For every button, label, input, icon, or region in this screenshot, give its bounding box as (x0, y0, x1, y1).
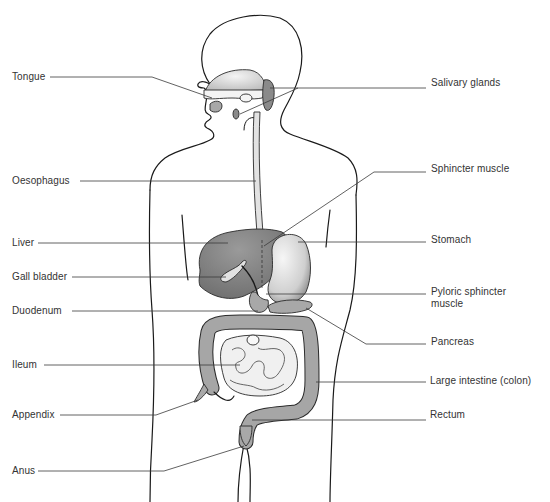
pancreas-shape (268, 300, 312, 313)
mouth-structures (204, 70, 274, 130)
appendix-shape (194, 384, 208, 402)
tongue-shape (210, 101, 222, 112)
label-ileum: Ileum (12, 359, 37, 371)
label-rectum: Rectum (430, 409, 465, 421)
label-gall-bladder: Gall bladder (12, 271, 67, 283)
label-salivary-glands: Salivary glands (431, 77, 500, 89)
label-appendix: Appendix (12, 409, 55, 421)
digestive-system-diagram (0, 0, 550, 502)
duodenum-shape (249, 292, 268, 312)
oesophagus-shape (253, 112, 264, 245)
label-large-intestine: Large intestine (colon) (430, 375, 531, 387)
label-anus: Anus (12, 465, 35, 477)
label-stomach: Stomach (431, 234, 471, 246)
label-tongue: Tongue (12, 71, 45, 83)
label-liver: Liver (12, 237, 34, 249)
label-pyloric-sphincter-line1: Pyloric sphincter (431, 286, 506, 298)
ileum-shape (221, 335, 298, 396)
salivary-gland-shape (263, 80, 274, 111)
label-pyloric-sphincter: Pyloric sphincter muscle (431, 286, 506, 310)
label-pyloric-sphincter-line2: muscle (431, 298, 506, 310)
label-pancreas: Pancreas (431, 336, 474, 348)
label-sphincter-muscle: Sphincter muscle (431, 163, 509, 175)
label-duodenum: Duodenum (12, 305, 62, 317)
stomach-shape (268, 234, 311, 303)
label-oesophagus: Oesophagus (12, 175, 70, 187)
